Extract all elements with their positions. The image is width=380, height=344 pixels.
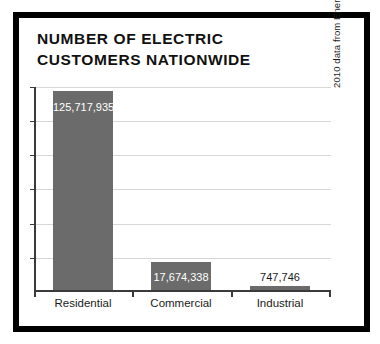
bar-value-residential: 125,717,935	[53, 101, 113, 113]
y-axis-tick	[30, 87, 34, 88]
y-axis-tick	[30, 189, 34, 190]
y-axis-tick	[30, 121, 34, 122]
chart-title-line-1: NUMBER OF ELECTRIC	[37, 28, 327, 49]
x-axis-line	[34, 290, 331, 292]
source-note: 2010 data from Energy Information Admini…	[331, 0, 342, 88]
category-label-residential: Residential	[38, 297, 128, 309]
y-axis-tick	[30, 155, 34, 156]
bar-industrial	[250, 286, 310, 290]
y-axis-tick	[30, 258, 34, 259]
category-label-industrial: Industrial	[235, 297, 325, 309]
y-axis-line	[34, 87, 36, 292]
figure-frame-inner: NUMBER OF ELECTRIC CUSTOMERS NATIONWIDE	[19, 18, 364, 326]
x-axis-tick	[329, 292, 331, 297]
chart-figure: NUMBER OF ELECTRIC CUSTOMERS NATIONWIDE	[0, 0, 380, 344]
category-label-commercial: Commercial	[136, 297, 226, 309]
gridline	[34, 87, 331, 88]
y-axis-tick	[30, 224, 34, 225]
bar-value-industrial: 747,746	[250, 271, 310, 283]
x-axis-tick	[132, 292, 134, 297]
x-axis-tick	[231, 292, 233, 297]
figure-frame: NUMBER OF ELECTRIC CUSTOMERS NATIONWIDE	[13, 12, 370, 332]
bar-value-commercial: 17,674,338	[151, 271, 211, 283]
chart-title-line-2: CUSTOMERS NATIONWIDE	[37, 49, 327, 70]
bar-residential	[53, 91, 113, 290]
x-axis-tick	[34, 292, 36, 297]
plot-area: 125,717,935 17,674,338 747,746 Residenti…	[34, 87, 331, 292]
chart-title: NUMBER OF ELECTRIC CUSTOMERS NATIONWIDE	[37, 28, 327, 70]
